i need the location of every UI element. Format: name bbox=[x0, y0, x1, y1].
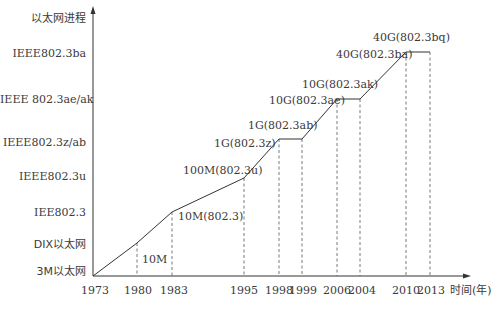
x-tick-label: 2010 bbox=[392, 285, 420, 297]
y-axis-title: 以太网进程 bbox=[0, 13, 86, 25]
y-tick-label: IEE802.3 bbox=[0, 207, 86, 219]
x-tick-label: 2004 bbox=[348, 285, 376, 297]
x-tick-label: 1983 bbox=[160, 285, 188, 297]
point-label-10g-802-3ak: 10G(802.3ak) bbox=[302, 79, 378, 91]
point-label-1g-802-3z: 1G(802.3z) bbox=[214, 138, 276, 150]
y-tick-label: IEEE802.3z/ab bbox=[0, 137, 86, 149]
y-tick-label: DIX以太网 bbox=[0, 239, 86, 251]
point-label-1g-802-3ab: 1G(802.3ab) bbox=[248, 120, 317, 132]
point-label-10m: 10M bbox=[142, 254, 167, 266]
x-tick-label: 1980 bbox=[124, 285, 152, 297]
y-tick-label: IEEE802.3ba bbox=[0, 48, 86, 60]
x-tick-label: 2006 bbox=[323, 285, 351, 297]
x-axis-arrow-icon bbox=[463, 274, 471, 279]
x-tick-label: 2013 bbox=[417, 285, 445, 297]
point-label-10m-802-3: 10M(802.3) bbox=[178, 211, 243, 223]
y-axis-arrow-icon bbox=[91, 6, 96, 14]
x-tick-label: 1999 bbox=[289, 285, 317, 297]
point-label-10g-802-3ae: 10G(802.3ae) bbox=[269, 95, 345, 107]
y-tick-label: IEEE 802.3ae/ak bbox=[0, 94, 86, 106]
point-label-40g-802-3ba: 40G(802.3ba) bbox=[336, 49, 412, 61]
x-tick-label: 1995 bbox=[230, 285, 258, 297]
point-label-100m-802-3u: 100M(802.3u) bbox=[183, 165, 262, 177]
point-label-40g-802-3bq: 40G(802.3bq) bbox=[373, 32, 450, 44]
y-tick-label: IEEE802.3u bbox=[0, 171, 86, 183]
y-tick-label: 3M以太网 bbox=[0, 266, 86, 278]
drop-lines bbox=[137, 52, 430, 276]
x-tick-label: 1973 bbox=[81, 285, 109, 297]
x-axis-title: 时间(年) bbox=[450, 285, 492, 297]
